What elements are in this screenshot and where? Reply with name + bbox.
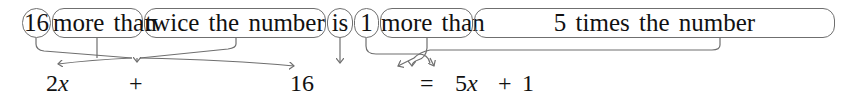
const-16: 16 xyxy=(290,70,314,96)
arrow-to-2x xyxy=(58,58,132,64)
operator-plus-1: + xyxy=(129,70,143,96)
term-2x: 2x xyxy=(46,70,69,96)
const-1: 1 xyxy=(522,70,534,96)
operator-equals: = xyxy=(420,70,434,96)
term-5x: 5x xyxy=(455,70,478,96)
arrow-to-5x xyxy=(398,38,720,66)
arrow-to-1 xyxy=(430,58,434,66)
arrow-to-16 xyxy=(140,58,294,66)
operator-plus-2: + xyxy=(498,70,512,96)
